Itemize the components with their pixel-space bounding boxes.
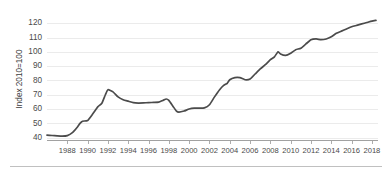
x-axis-tick-label: 1992 [99,146,116,155]
y-axis-tick-label: 60 [33,104,43,113]
y-axis-tick-label: 40 [33,133,43,142]
x-axis-tick-label: 2018 [363,146,380,155]
x-axis-tick-label: 1994 [120,146,137,155]
x-axis-tick-label: 2006 [242,146,259,155]
x-axis-tick-label: 1990 [79,146,96,155]
y-axis-tick-label: 50 [33,119,43,128]
chart-figure: 405060708090100110120 198819901992199419… [0,0,392,174]
y-axis-tick-labels: 405060708090100110120 [28,18,42,141]
x-axis-tick-label: 2004 [221,146,238,155]
x-axis-tick-label: 1998 [160,146,177,155]
y-axis-tick-label: 70 [33,90,43,99]
x-axis-tick-label: 2016 [343,146,360,155]
x-axis-tick-label: 1988 [59,146,76,155]
x-axis-tick-label: 2008 [262,146,279,155]
x-axis-tick-marks [68,141,373,145]
x-axis-tick-label: 2000 [181,146,198,155]
x-axis-tick-labels: 1988199019921994199619982000200220042006… [59,146,381,155]
x-axis-tick-label: 2012 [303,146,320,155]
y-axis-tick-label: 80 [33,76,43,85]
y-axis-tick-label: 100 [28,47,42,56]
y-axis-tick-label: 120 [28,18,42,27]
line-chart: 405060708090100110120 198819901992199419… [0,0,392,174]
y-axis-tick-label: 110 [29,33,42,42]
gridlines-group [47,24,378,139]
x-axis-tick-label: 1996 [140,146,157,155]
y-axis-tick-label: 90 [33,61,43,70]
y-axis-title: Index 2010=100 [15,49,24,108]
x-axis-tick-label: 2014 [323,146,340,155]
x-axis-tick-label: 2010 [282,146,299,155]
x-axis-tick-label: 2002 [201,146,218,155]
data-series-line [47,20,376,136]
